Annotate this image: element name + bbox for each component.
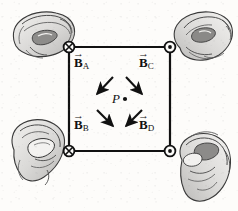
current-out-of-page-symbol-C	[165, 42, 176, 53]
field-subscript-BB: B	[83, 123, 89, 133]
BB-arrow	[97, 110, 113, 126]
point-p-label: P	[112, 92, 120, 105]
current-out-of-page-symbol-D	[165, 146, 176, 157]
hand-bottom-right	[180, 132, 231, 201]
vector-arrow-accent-BC: →	[138, 48, 149, 59]
vector-arrow-accent-BD: →	[138, 110, 149, 121]
vector-arrow-accent-BB: →	[73, 110, 84, 121]
field-label-BA: →BA	[74, 56, 89, 71]
field-label-BB: →BB	[74, 118, 89, 133]
field-subscript-BC: C	[148, 61, 154, 71]
field-label-BC: →BC	[139, 56, 154, 71]
vector-arrow-accent-BA: →	[73, 48, 84, 59]
BA-arrow	[97, 77, 113, 94]
field-label-BD: →BD	[139, 118, 154, 133]
hand-top-right	[174, 12, 232, 60]
hand-bottom-left	[12, 120, 65, 185]
current-into-page-symbol-B	[64, 146, 75, 157]
point-p-dot	[123, 97, 127, 101]
field-subscript-BA: A	[83, 61, 90, 71]
field-subscript-BD: D	[148, 123, 155, 133]
BC-arrow	[126, 77, 142, 94]
